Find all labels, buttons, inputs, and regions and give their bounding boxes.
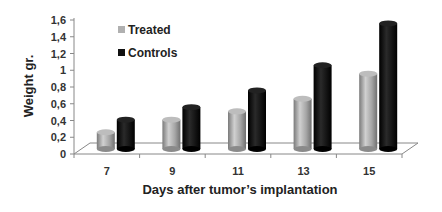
bar-controls-7 xyxy=(117,117,135,152)
y-axis-ticks: 00,20,40,60,811,21,41,6 xyxy=(51,14,74,160)
legend-item-controls: Controls xyxy=(118,46,178,60)
bar-treated-13 xyxy=(294,96,312,152)
y-tick-label: 0,8 xyxy=(51,81,66,93)
x-tick-label: 13 xyxy=(297,165,309,177)
bar-treated-9 xyxy=(162,117,180,152)
bar-chart: Weight gr. 00,20,40,60,811,21,41,6 79111… xyxy=(0,0,442,212)
y-tick-label: 1,2 xyxy=(51,48,66,60)
bar-treated-15 xyxy=(359,71,377,152)
x-axis-title: Days after tumor’s implantation xyxy=(142,182,337,197)
bar-treated-11 xyxy=(228,108,246,152)
legend-item-treated: Treated xyxy=(118,23,171,37)
x-tick-label: 7 xyxy=(104,165,110,177)
legend-label-treated: Treated xyxy=(128,23,171,37)
y-tick-label: 1,4 xyxy=(51,31,67,43)
bar-controls-9 xyxy=(182,104,200,152)
bar-controls-13 xyxy=(314,62,332,152)
bars xyxy=(97,20,397,152)
bar-treated-7 xyxy=(97,129,115,152)
y-tick-label: 1 xyxy=(60,64,66,76)
legend: Treated Controls xyxy=(118,23,178,60)
x-tick-label: 15 xyxy=(363,165,375,177)
legend-label-controls: Controls xyxy=(128,46,178,60)
y-axis-title: Weight gr. xyxy=(21,55,36,118)
x-tick-label: 9 xyxy=(169,165,175,177)
bar-controls-15 xyxy=(379,20,397,152)
y-tick-label: 1,6 xyxy=(51,14,66,26)
y-tick-label: 0,6 xyxy=(51,98,66,110)
legend-swatch-treated xyxy=(118,26,125,33)
x-axis-ticks: 79111315 xyxy=(74,154,402,177)
bar-controls-11 xyxy=(248,87,266,152)
legend-swatch-controls xyxy=(118,49,125,56)
y-tick-label: 0,4 xyxy=(51,115,67,127)
y-tick-label: 0,2 xyxy=(51,131,66,143)
x-tick-label: 11 xyxy=(232,165,244,177)
y-tick-label: 0 xyxy=(60,148,66,160)
